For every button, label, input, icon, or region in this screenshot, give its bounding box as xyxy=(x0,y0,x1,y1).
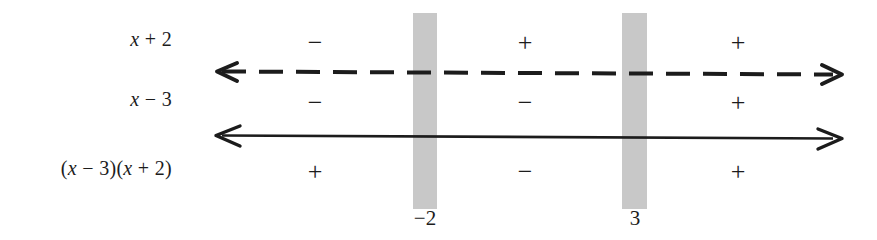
sign-row1-interval1: − xyxy=(293,30,337,56)
sign-row3-interval3: + xyxy=(716,159,760,185)
sign-row2-interval2: − xyxy=(503,90,547,116)
critical-band-3 xyxy=(622,13,647,209)
solid-number-line xyxy=(216,126,842,149)
sign-row2-interval3: + xyxy=(716,90,760,116)
sign-row1-interval2: + xyxy=(503,30,547,56)
row-label-x-plus-2: x + 2 xyxy=(0,28,172,51)
sign-chart-figure: x + 2 x − 3 (x − 3)(x + 2) − + + − − + +… xyxy=(0,0,877,240)
sign-row1-interval3: + xyxy=(716,30,760,56)
row-label-product: (x − 3)(x + 2) xyxy=(0,157,172,180)
sign-row2-interval1: − xyxy=(293,90,337,116)
row-label-x-minus-3: x − 3 xyxy=(0,88,172,111)
tick-label-3: 3 xyxy=(605,206,665,231)
dashed-number-line xyxy=(217,63,842,84)
sign-row3-interval2: − xyxy=(503,159,547,185)
critical-band-minus-2 xyxy=(413,13,437,209)
tick-label-minus-2: −2 xyxy=(395,206,455,231)
sign-row3-interval1: + xyxy=(293,159,337,185)
